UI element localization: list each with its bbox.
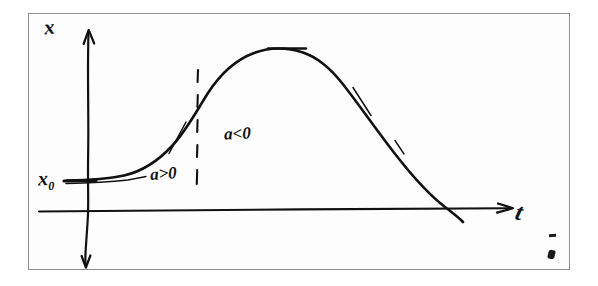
initial-value-subscript: 0 xyxy=(48,179,55,193)
t-axis-line xyxy=(39,208,508,211)
sketch-canvas xyxy=(0,0,598,286)
x0-axis-tick xyxy=(64,180,96,181)
initial-value-symbol: x xyxy=(37,167,48,189)
growth-curve xyxy=(67,49,463,222)
figure-page: x x0 t a>0 a<0 xyxy=(0,0,598,286)
acceleration-positive-label: a>0 xyxy=(149,164,177,183)
stray-ink-dash xyxy=(549,234,556,237)
x-axis-line xyxy=(85,33,88,266)
x-axis-label: x xyxy=(43,17,56,39)
inflection-tangent-segment xyxy=(169,122,186,154)
inflection-dashed-line xyxy=(197,70,198,184)
acceleration-negative-label: a<0 xyxy=(224,125,251,143)
initial-value-label: x0 xyxy=(37,168,54,193)
descent-tangent-tick xyxy=(395,141,404,155)
